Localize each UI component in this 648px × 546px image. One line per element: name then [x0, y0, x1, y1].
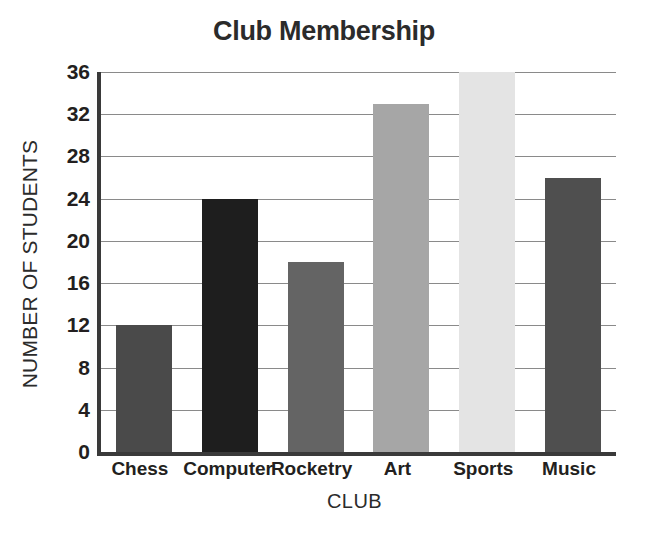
x-axis-tick-labels: ChessComputerRocketryArtSportsMusic: [97, 458, 612, 488]
bar-slot: [187, 72, 272, 452]
y-tick-label: 4: [40, 398, 90, 422]
bar-music[interactable]: [545, 178, 601, 452]
chart-title: Club Membership: [0, 16, 648, 47]
x-tick-label-sports: Sports: [441, 458, 526, 488]
y-tick-label: 12: [40, 313, 90, 337]
x-axis-label: CLUB: [97, 490, 612, 513]
y-axis-tick-labels: 04812162024283236: [40, 72, 90, 452]
plot-area: [97, 72, 616, 456]
y-tick-label: 16: [40, 271, 90, 295]
y-tick-label: 24: [40, 187, 90, 211]
y-tick-label: 8: [40, 356, 90, 380]
y-tick-label: 28: [40, 144, 90, 168]
x-tick-label-rocketry: Rocketry: [269, 458, 354, 488]
y-tick-label: 0: [40, 440, 90, 464]
y-tick-label: 32: [40, 102, 90, 126]
x-tick-label-computer: Computer: [183, 458, 268, 488]
x-tick-label-art: Art: [355, 458, 440, 488]
bar-rocketry[interactable]: [288, 262, 344, 452]
bar-chart-figure: Club Membership NUMBER OF STUDENTS 04812…: [0, 0, 648, 546]
x-tick-label-chess: Chess: [97, 458, 182, 488]
bars-group: [101, 72, 616, 452]
bar-computer[interactable]: [202, 199, 258, 452]
bar-slot: [445, 72, 530, 452]
bar-slot: [531, 72, 616, 452]
y-axis-label: NUMBER OF STUDENTS: [18, 84, 42, 444]
y-tick-label: 20: [40, 229, 90, 253]
bar-slot: [101, 72, 186, 452]
bar-art[interactable]: [373, 104, 429, 452]
bar-sports[interactable]: [459, 72, 515, 452]
bar-slot: [359, 72, 444, 452]
x-tick-label-music: Music: [527, 458, 612, 488]
y-tick-label: 36: [40, 60, 90, 84]
bar-slot: [273, 72, 358, 452]
bar-chess[interactable]: [116, 325, 172, 452]
